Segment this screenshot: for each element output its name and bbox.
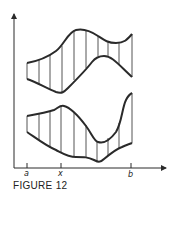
tick-label-b: b bbox=[128, 170, 133, 179]
lower-top-curve bbox=[27, 93, 132, 143]
lower-bottom-curve bbox=[27, 132, 132, 162]
figure-caption: FIGURE 12 bbox=[13, 180, 67, 191]
upper-top-curve bbox=[27, 29, 132, 63]
tick-label-x: x bbox=[58, 169, 63, 178]
lower-region bbox=[27, 93, 132, 162]
upper-region bbox=[27, 29, 132, 92]
upper-bottom-curve bbox=[27, 56, 132, 93]
tick-label-a: a bbox=[24, 169, 29, 178]
